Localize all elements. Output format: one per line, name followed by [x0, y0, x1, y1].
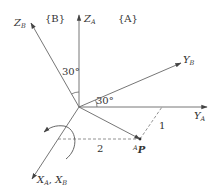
y-b-axis	[79, 63, 181, 107]
z-angle-label: 30°	[62, 67, 80, 77]
z-a-label: ZA	[84, 14, 96, 24]
y-angle-label: 30°	[96, 96, 114, 106]
y-a-label: YA	[194, 111, 205, 121]
vector-to-p	[79, 107, 140, 139]
diagram-canvas: ZB {B} ZA {A} 30° YB 30° YA 1 2 AP XA, X…	[0, 0, 218, 195]
x-a-x-b-label: XA, XB	[37, 175, 67, 185]
angle-arc-z	[72, 92, 80, 94]
z-b-label: ZB	[14, 18, 26, 28]
point-p-label: AP	[133, 145, 145, 155]
dimension-2-label: 2	[97, 144, 103, 154]
z-b-axis	[31, 23, 79, 107]
frame-b-label: {B}	[45, 14, 65, 24]
point-p-dot	[139, 138, 142, 141]
y-b-label: YB	[183, 55, 194, 65]
dimension-1-label: 1	[159, 121, 165, 131]
x-axis	[32, 107, 79, 179]
frame-a-label: {A}	[118, 14, 138, 24]
